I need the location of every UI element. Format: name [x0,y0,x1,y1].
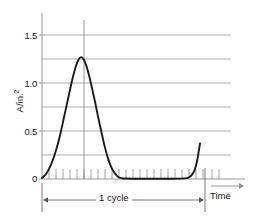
cycle-arrowhead-right [199,197,204,202]
time-arrow-head [239,183,244,189]
y-axis-label: A/in.2 [13,73,25,129]
cycle-arrowhead-left [43,197,48,202]
time-axis-arrow [211,183,244,189]
gridlines-horizontal [42,35,231,155]
cycle-span-bracket [42,168,205,212]
y-axis-label-exponent: 2 [13,90,20,94]
y-tick-label-1.5: 1.5 [12,30,37,41]
data-curve [42,57,200,179]
chart-figure: 1.5 1.0 0.5 0 A/in.2 1 cycle Time [0,0,255,217]
chart-plot-area [0,0,255,217]
x-axis-label: Time [210,190,231,201]
y-tick-label-0: 0 [12,173,37,184]
cycle-span-label: 1 cycle [96,192,132,203]
y-axis-label-base: A/in. [14,93,25,112]
